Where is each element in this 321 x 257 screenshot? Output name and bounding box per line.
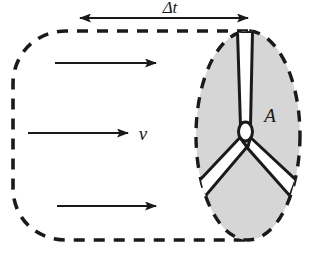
area-label: A (262, 105, 276, 126)
figure-canvas: Δt v A (0, 0, 321, 257)
turbine-blade-top (238, 32, 253, 127)
wind-turbine-stream-tube-figure: Δt v A (0, 0, 321, 257)
turbine-hub (239, 122, 253, 141)
velocity-label: v (139, 123, 148, 144)
flow-arrow-group (28, 63, 156, 206)
delta-t-label: Δt (162, 0, 179, 17)
